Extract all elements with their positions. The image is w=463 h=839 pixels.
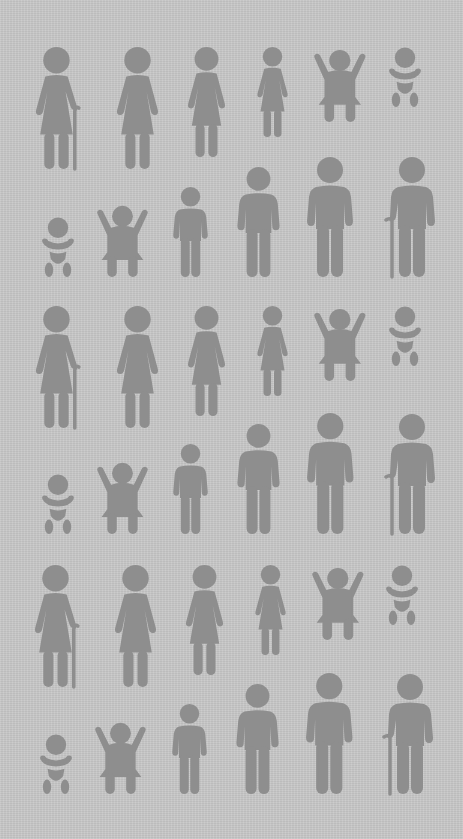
toddler-icon [92, 720, 149, 794]
woman-icon [107, 47, 168, 169]
boy-icon [168, 444, 213, 534]
baby-icon [387, 47, 423, 107]
teen-icon [230, 684, 285, 794]
baby-icon [38, 734, 74, 794]
elderly-man-icon [380, 414, 440, 534]
elderly-woman-icon [28, 47, 89, 169]
toddler-icon [94, 203, 151, 277]
woman-icon [105, 565, 166, 687]
teen-icon [231, 167, 286, 277]
elderly-man-icon [378, 674, 438, 794]
man-icon [300, 157, 360, 277]
toddler-icon [309, 565, 367, 640]
woman-icon [107, 306, 168, 428]
baby-icon [40, 474, 76, 534]
small-girl-icon [250, 306, 295, 396]
baby-icon [387, 306, 423, 366]
elderly-woman-icon [28, 306, 89, 428]
small-girl-icon [250, 47, 295, 137]
toddler-icon [311, 306, 369, 381]
toddler-icon [311, 47, 369, 122]
man-icon [300, 413, 361, 534]
baby-icon [40, 217, 76, 277]
boy-icon [167, 704, 212, 794]
girl-icon [179, 47, 234, 157]
elderly-woman-icon [27, 565, 88, 687]
teen-icon [231, 424, 286, 534]
toddler-icon [94, 460, 151, 534]
elderly-man-icon [380, 157, 440, 277]
small-girl-icon [248, 565, 293, 655]
baby-icon [384, 565, 420, 625]
girl-icon [179, 306, 234, 416]
boy-icon [168, 187, 213, 277]
girl-icon [177, 565, 232, 675]
man-icon [299, 673, 360, 794]
